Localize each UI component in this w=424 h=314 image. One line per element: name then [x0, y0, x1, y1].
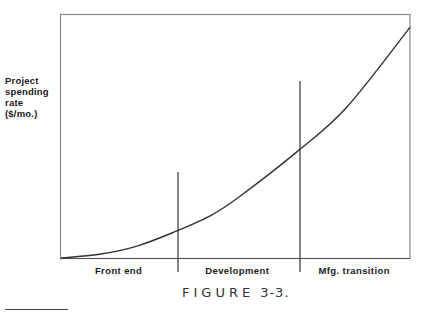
phase-label-development: Development: [205, 265, 269, 276]
phase-label-front-end: Front end: [95, 265, 142, 276]
footnote-rule: [5, 309, 68, 310]
figure-caption-word: FIGURE: [182, 285, 254, 300]
chart-frame: [61, 15, 411, 259]
phase-label-mfg-transition: Mfg. transition: [318, 265, 389, 276]
figure-caption-number: 3-3.: [260, 285, 289, 300]
figure-caption: FIGURE3-3.: [182, 285, 290, 300]
spending-rate-curve: [61, 27, 410, 258]
